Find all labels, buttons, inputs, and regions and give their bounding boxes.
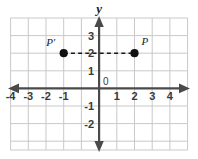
data-point-p-prime: P′: [45, 36, 68, 57]
y-axis-label: y: [94, 1, 102, 16]
data-point-p: P: [130, 35, 148, 57]
y-tick-label: -2: [84, 118, 94, 130]
x-tick-label: -4: [6, 90, 17, 102]
y-tick-label: 3: [88, 30, 94, 42]
x-tick-label: 4: [167, 90, 174, 102]
point-label-p: P: [141, 35, 149, 47]
y-tick-label: 2: [88, 47, 94, 59]
origin-label: 0: [103, 76, 109, 87]
x-tick-label: -1: [59, 90, 69, 102]
point-marker: [130, 49, 138, 57]
y-tick-labels: 3 2 1 -1 -2: [84, 30, 94, 130]
x-tick-label: 3: [149, 90, 155, 102]
point-label-p-prime: P′: [45, 36, 56, 48]
x-tick-label: -2: [41, 90, 51, 102]
point-marker: [60, 49, 68, 57]
x-tick-label: 2: [131, 90, 137, 102]
y-tick-label: 1: [88, 65, 94, 77]
y-tick-label: -1: [84, 100, 94, 112]
coordinate-plane-svg: -4 -3 -2 -1 1 2 3 4 3 2 1 -1 -2 0 y P′: [0, 0, 198, 159]
x-tick-label: -3: [23, 90, 33, 102]
x-tick-label: 1: [114, 90, 120, 102]
coordinate-plane-figure: -4 -3 -2 -1 1 2 3 4 3 2 1 -1 -2 0 y P′: [0, 0, 198, 159]
